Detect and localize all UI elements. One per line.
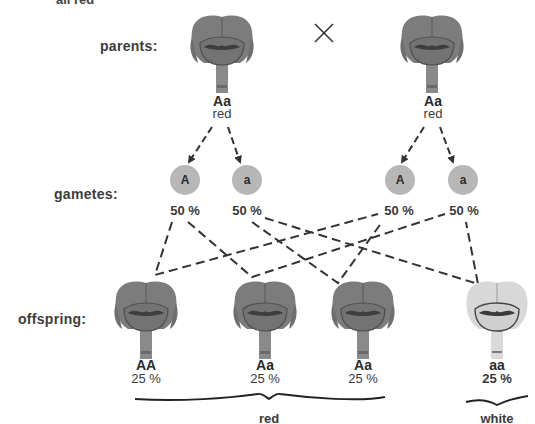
gamete-a-left: a xyxy=(232,165,262,195)
parent-right-phenotype: red xyxy=(403,107,463,121)
parent-flower-right-icon xyxy=(400,16,463,93)
gamete-A-left: A xyxy=(170,165,200,195)
brace-white-icon xyxy=(466,396,528,405)
gamete-a-right: a xyxy=(448,165,478,195)
gamete-to-offspring-lines xyxy=(155,214,478,284)
gamete-A-right-percent: 50 % xyxy=(369,203,429,218)
gamete-a-right-percent: 50 % xyxy=(434,203,494,218)
parent-flower-left-icon xyxy=(190,16,253,93)
gamete-A-left-percent: 50 % xyxy=(155,203,215,218)
gamete-a-left-percent: 50 % xyxy=(217,203,277,218)
offspring-flower-aa-icon xyxy=(467,282,528,359)
brace-red-icon xyxy=(135,394,385,400)
gamete-A-right: A xyxy=(385,165,415,195)
offspring-flower-Aa-2-icon xyxy=(331,282,394,359)
offspring-AA-percent: 25 % xyxy=(116,371,176,386)
group-label-white: white xyxy=(467,411,527,424)
group-label-red: red xyxy=(239,411,299,424)
cross-icon xyxy=(315,24,333,42)
offspring-flower-AA-icon xyxy=(114,282,177,359)
offspring-flower-Aa-1-icon xyxy=(233,282,296,359)
offspring-Aa-2-percent: 25 % xyxy=(333,371,393,386)
parent-to-gamete-arrows xyxy=(189,127,453,162)
offspring-Aa-1-percent: 25 % xyxy=(235,371,295,386)
parent-left-phenotype: red xyxy=(192,107,252,121)
offspring-aa-percent: 25 % xyxy=(467,371,527,386)
